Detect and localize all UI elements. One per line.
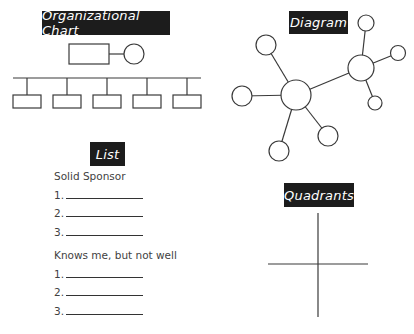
- list-item: 1.: [54, 189, 143, 201]
- diagram-node: [391, 46, 406, 61]
- diagram-node: [232, 86, 252, 106]
- list-item-blank-line[interactable]: [66, 234, 143, 236]
- list-item-number: 1.: [54, 189, 66, 201]
- org-child-node: [173, 95, 201, 108]
- diagram-node: [358, 15, 374, 31]
- org-child-node: [133, 95, 161, 108]
- network-diagram: [232, 15, 406, 161]
- list-item-blank-line[interactable]: [66, 215, 143, 217]
- list-item-number: 2.: [54, 207, 66, 219]
- list-item: 3.: [54, 226, 143, 238]
- org-child-node: [13, 95, 41, 108]
- diagram-node: [368, 96, 382, 110]
- list-item-number: 3.: [54, 305, 66, 317]
- org-top-node: [69, 44, 109, 64]
- list-item: 2.: [54, 207, 143, 219]
- list-item-number: 2.: [54, 286, 66, 298]
- list-item-blank-line[interactable]: [66, 313, 143, 315]
- diagram-hub-node: [348, 55, 374, 81]
- list-item-blank-line[interactable]: [66, 294, 143, 296]
- list-item: 3.: [54, 305, 143, 317]
- diagram-hub-node: [281, 80, 311, 110]
- list-group-heading: Solid Sponsor: [54, 170, 126, 182]
- list-group-heading: Knows me, but not well: [54, 249, 177, 261]
- org-partner-node: [124, 44, 144, 64]
- list-item-number: 1.: [54, 268, 66, 280]
- diagram-node: [256, 35, 276, 55]
- drawing-canvas: [0, 0, 414, 334]
- list-item-blank-line[interactable]: [66, 276, 143, 278]
- org-child-node: [53, 95, 81, 108]
- org-child-node: [93, 95, 121, 108]
- diagram-node: [318, 126, 338, 146]
- quadrants-cross: [268, 213, 368, 317]
- list-item: 2.: [54, 286, 143, 298]
- list-item-blank-line[interactable]: [66, 197, 143, 199]
- org-chart: [13, 44, 201, 108]
- list-item-number: 3.: [54, 226, 66, 238]
- list-item: 1.: [54, 268, 143, 280]
- diagram-node: [269, 141, 289, 161]
